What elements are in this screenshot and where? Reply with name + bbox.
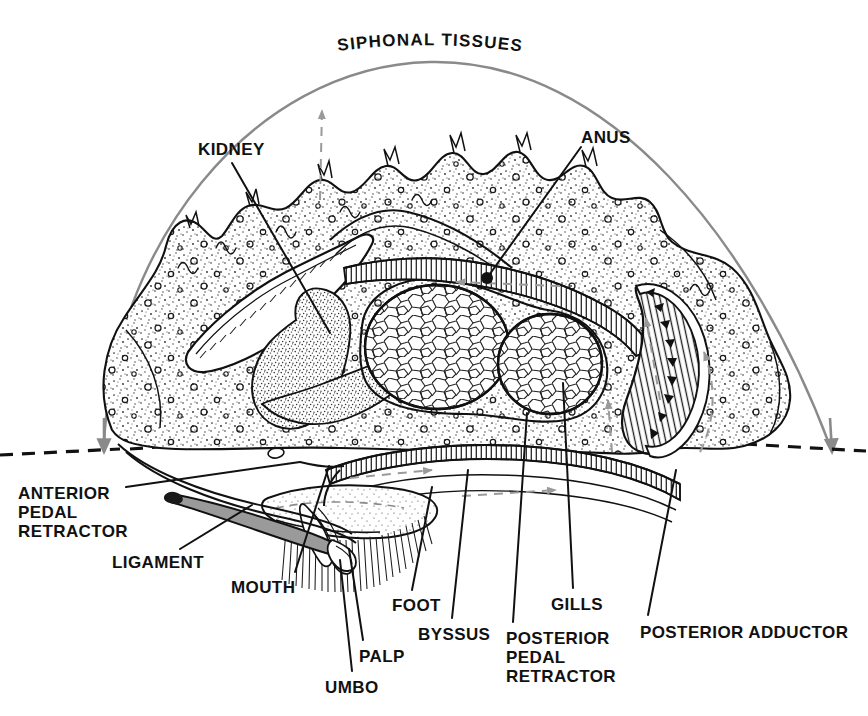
label-posterior-adductor: POSTERIOR ADDUCTOR [640, 623, 848, 642]
label-anus: ANUS [581, 128, 631, 147]
gonad-right [498, 314, 602, 414]
label-ligament: LIGAMENT [112, 553, 204, 572]
label-umbo: UMBO [325, 678, 379, 697]
label-gills: GILLS [551, 595, 603, 614]
label-anterior-pedal-retractor: ANTERIOR PEDAL RETRACTOR [18, 484, 128, 541]
figure-canvas: SIPHONAL TISSUES KIDNEYANUSANTERIOR PEDA… [0, 0, 868, 716]
gonad-left [365, 285, 509, 409]
label-byssus: BYSSUS [418, 625, 490, 644]
label-kidney: KIDNEY [198, 140, 265, 159]
label-foot: FOOT [392, 596, 441, 615]
label-palp: PALP [359, 647, 405, 666]
label-mouth: MOUTH [231, 578, 295, 597]
label-posterior-pedal-retractor: POSTERIOR PEDAL RETRACTOR [506, 629, 616, 686]
